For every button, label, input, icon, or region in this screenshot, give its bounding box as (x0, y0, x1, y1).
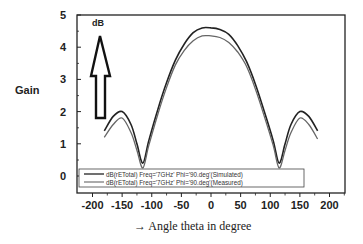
x-axis-label: → Angle theta in degree (134, 219, 251, 234)
series-measured-line (104, 35, 317, 167)
y-tick-label: 4 (60, 41, 67, 53)
y-tick-label: 2 (60, 106, 66, 118)
series-simulated-line (104, 27, 317, 163)
y-tick-label: 1 (60, 138, 66, 150)
x-tick-label: -50 (173, 199, 189, 211)
x-tick-label: -100 (141, 199, 163, 211)
x-tick-label: -200 (81, 199, 103, 211)
x-tick-label: 200 (320, 199, 338, 211)
y-axis-label: Gain (15, 84, 40, 96)
data-series (104, 27, 317, 167)
x-tick-label: 50 (235, 199, 247, 211)
y-axis-ticks: 012345 (60, 9, 81, 182)
x-tick-label: -150 (111, 199, 133, 211)
plot-frame (77, 15, 345, 193)
x-tick-label: 150 (291, 199, 309, 211)
x-tick-label: 0 (208, 199, 214, 211)
up-arrow-icon (91, 36, 110, 118)
y-tick-label: 0 (60, 170, 66, 182)
x-axis-ticks: -200-150-100-50050100150200 (81, 193, 344, 211)
legend: dB(rETotal) Freq='7GHz' Phi='90.deg'(Sim… (79, 169, 304, 187)
y-tick-label: 5 (60, 9, 66, 21)
gain-chart: Gain 012345 -200-150-100-50050100150200 … (0, 0, 363, 244)
unit-label: dB (92, 18, 104, 28)
x-tick-label: 100 (261, 199, 279, 211)
y-tick-label: 3 (60, 73, 66, 85)
legend-entry-measured: dB(rETotal) Freq='7GHz' Phi='90.deg'(Mea… (106, 179, 243, 187)
legend-entry-simulated: dB(rETotal) Freq='7GHz' Phi='90.deg'(Sim… (106, 171, 243, 179)
